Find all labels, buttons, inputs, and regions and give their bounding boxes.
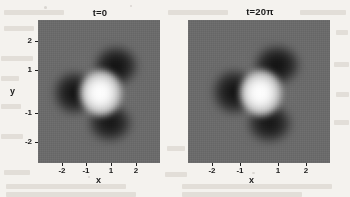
panel-right-plot-area [188,20,330,163]
figure-two-panel-heatmap: t=0 2 1 -1 -2 y -2 -1 1 2 x t=20π [0,0,350,197]
plot-noise-texture [188,20,330,163]
panel-right: t=20π -2 -1 1 2 x [175,0,350,197]
x-axis-label: x [249,175,254,185]
y-axis-label: y [10,86,15,96]
x-tick-label-neg-2: -2 [53,166,71,175]
x-tick-label-neg-1: -1 [77,166,95,175]
y-tick-label-2: 2 [18,36,32,45]
plot-noise-texture [38,20,160,163]
x-tick-label-neg-2: -2 [203,166,221,175]
panel-right-title: t=20π [220,6,300,17]
x-tick-label-1: 1 [102,166,120,175]
x-tick-label-1: 1 [269,166,287,175]
y-tick-label-1: 1 [18,65,32,74]
x-tick-label-2: 2 [297,166,315,175]
panel-left: t=0 2 1 -1 -2 y -2 -1 1 2 x [0,0,175,197]
y-tick-label-neg-1: -1 [18,108,32,117]
panel-left-title: t=0 [60,7,140,18]
panel-left-plot-area [38,20,160,163]
x-tick-label-2: 2 [127,166,145,175]
y-tick-label-neg-2: -2 [18,137,32,146]
x-tick-label-neg-1: -1 [231,166,249,175]
x-axis-label: x [96,175,101,185]
